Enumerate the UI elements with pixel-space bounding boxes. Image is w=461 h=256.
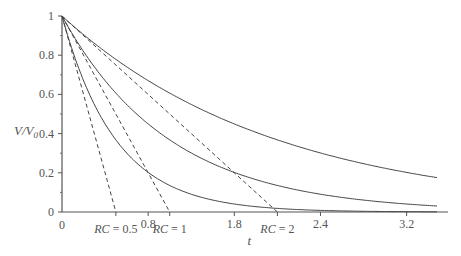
y-tick-label: 0.6	[39, 87, 54, 101]
curve-rc-1	[62, 16, 437, 206]
tangent-line-rc-0-5	[62, 16, 116, 212]
x-tick-label: RC = 2	[259, 222, 294, 236]
curve-rc-0-5	[62, 16, 437, 212]
x-axis-title: t	[248, 233, 252, 248]
y-tick-label: 0.2	[39, 166, 54, 180]
x-tick-label: RC = 0.5	[93, 222, 137, 236]
y-tick-label: 1	[48, 9, 54, 23]
y-axis-title: V/V0	[14, 123, 39, 140]
curve-rc-2	[62, 16, 437, 178]
tangent-line-rc-1	[62, 16, 170, 212]
x-tick-label: RC = 1	[152, 222, 187, 236]
x-tick-label: 1.8	[227, 217, 242, 231]
y-tick-label: 0	[48, 205, 54, 219]
x-tick-label: 3.2	[399, 217, 414, 231]
y-tick-label: 0.8	[39, 48, 54, 62]
chart-svg: 00.20.40.60.810RC = 0.50.8RC = 11.8RC = …	[0, 0, 461, 256]
tangent-line-rc-2	[62, 16, 277, 212]
x-tick-label: 2.4	[313, 217, 328, 231]
x-tick-label: 0	[59, 218, 65, 232]
curves	[62, 16, 437, 212]
y-tick-label: 0.4	[39, 127, 54, 141]
rc-discharge-chart: 00.20.40.60.810RC = 0.50.8RC = 11.8RC = …	[0, 0, 461, 256]
